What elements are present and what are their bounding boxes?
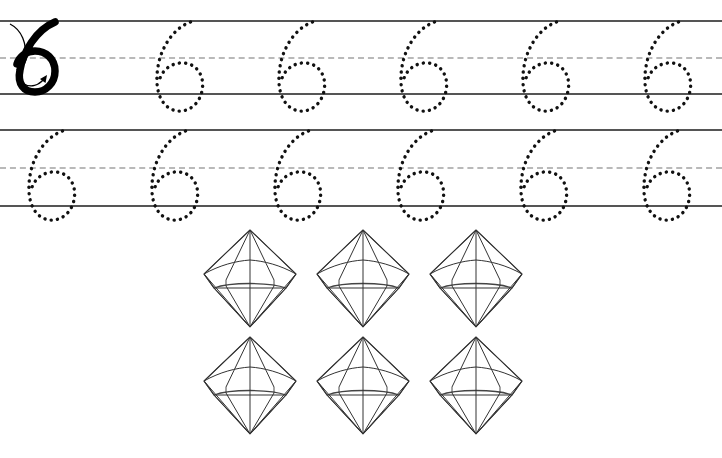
rule-line-bottom-row2: [0, 205, 722, 207]
rule-line-top-row2: [0, 129, 722, 131]
gem-count-group: [204, 230, 522, 434]
glyph-layer: [0, 0, 722, 458]
stroke-direction-arrow-loop: [22, 75, 47, 86]
diamond-gem: [204, 230, 296, 327]
rule-line-bottom-row1: [0, 93, 722, 95]
rule-line-mid-row1: [0, 57, 722, 59]
diamond-gem: [317, 337, 409, 434]
trace-glyph-6: [279, 22, 325, 111]
trace-glyph-6: [523, 22, 569, 111]
diamond-gem: [430, 337, 522, 434]
diamond-gem: [430, 230, 522, 327]
trace-glyph-6: [401, 22, 447, 111]
diamond-gem: [204, 337, 296, 434]
tracing-worksheet: [0, 0, 722, 458]
rule-line-top-row1: [0, 20, 722, 22]
rule-line-mid-row2: [0, 167, 722, 169]
trace-glyph-group-row1: [157, 22, 691, 111]
trace-glyph-6: [645, 22, 691, 111]
trace-glyph-6: [157, 22, 203, 111]
diamond-gem: [317, 230, 409, 327]
